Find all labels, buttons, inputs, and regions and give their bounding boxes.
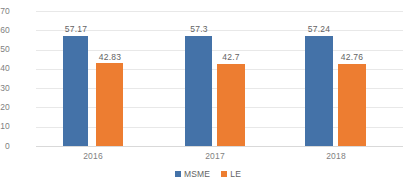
bar-le-2018 [338,64,366,147]
x-tick-label-2016: 2016 [73,152,113,161]
bar-msme-2017 [185,36,212,147]
y-tick-label: 50 [0,45,10,54]
data-label-le-2016: 42.83 [90,53,130,62]
bar-le-2017 [217,64,245,146]
legend-item-msme[interactable]: MSME [175,170,210,179]
legend-swatch-icon [221,171,227,177]
y-tick-label: 40 [0,64,10,73]
data-label-msme-2018: 57.24 [299,25,339,34]
bar-msme-2016 [63,36,88,146]
gridline [36,50,403,51]
y-tick-label: 20 [0,103,10,112]
bar-chart: 70 60 50 40 30 20 10 0 57.17 42.83 57.3 … [0,0,416,188]
x-tick-label-2018: 2018 [316,152,356,161]
legend-label-le: LE [230,170,241,179]
data-label-msme-2016: 57.17 [56,25,96,34]
y-tick-label: 60 [0,26,10,35]
data-label-msme-2017: 57.3 [179,25,219,34]
data-label-le-2017: 42.7 [211,53,251,62]
gridline [36,11,403,12]
x-tick-label-2017: 2017 [195,152,235,161]
y-tick-label: 70 [0,7,10,16]
y-tick-label: 10 [0,122,10,131]
legend: MSME LE [0,170,416,179]
y-tick-label: 0 [0,142,10,151]
data-label-le-2018: 42.76 [332,53,372,62]
y-tick-label: 30 [0,84,10,93]
legend-label-msme: MSME [184,170,210,179]
plot-area: 57.17 42.83 57.3 42.7 57.24 42.76 [36,11,403,146]
legend-swatch-icon [175,171,181,177]
bar-le-2016 [96,63,123,146]
baseline [36,146,403,147]
legend-item-le[interactable]: LE [221,170,241,179]
bar-msme-2018 [305,36,333,146]
